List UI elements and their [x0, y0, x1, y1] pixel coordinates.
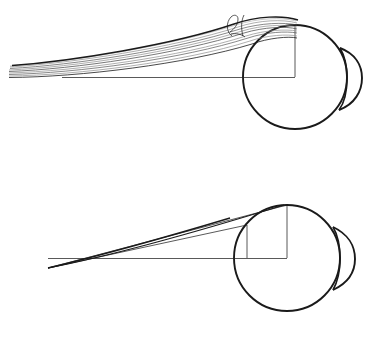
top-ray-bundle: [9, 17, 298, 78]
panel-bottom: [0, 170, 371, 341]
figure-root: Ray bundle focusing onto a spherical sur…: [0, 0, 371, 341]
panel-top: [0, 0, 371, 170]
